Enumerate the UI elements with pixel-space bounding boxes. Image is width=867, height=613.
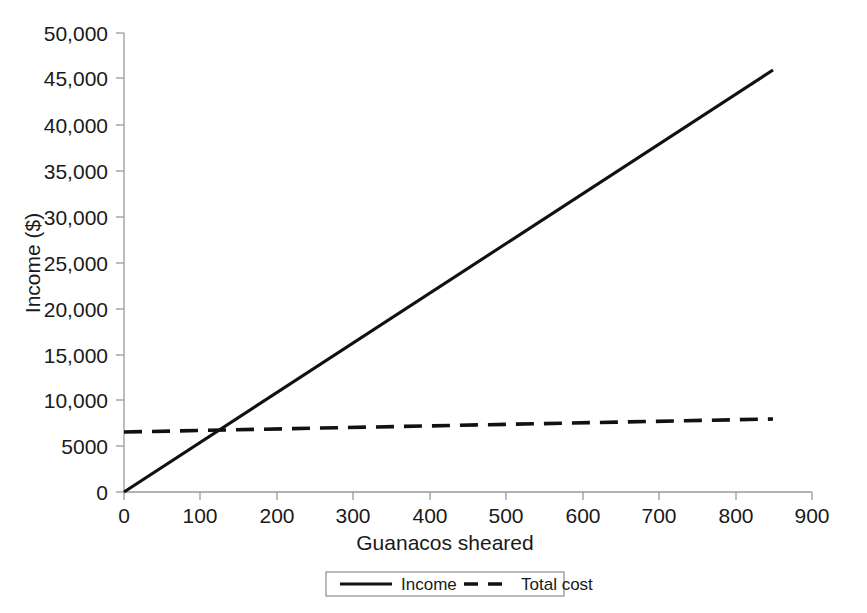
x-tick-label: 0 (118, 504, 130, 527)
y-tick-label: 10,000 (44, 389, 108, 412)
legend-label-total-cost: Total cost (521, 575, 593, 594)
y-tick-label: 5000 (61, 435, 108, 458)
x-tick-label: 700 (641, 504, 676, 527)
x-axis-tick-labels: 0 100 200 300 400 500 600 700 800 900 (118, 504, 829, 527)
x-tick-label: 800 (718, 504, 753, 527)
x-tick-label: 600 (565, 504, 600, 527)
legend-label-income: Income (401, 575, 457, 594)
y-tick-label: 20,000 (44, 298, 108, 321)
x-tick-label: 400 (412, 504, 447, 527)
x-tick-label: 200 (259, 504, 294, 527)
y-tick-label: 25,000 (44, 252, 108, 275)
x-axis-ticks (124, 492, 812, 500)
x-tick-label: 100 (182, 504, 217, 527)
y-tick-label: 15,000 (44, 344, 108, 367)
y-axis-ticks (116, 33, 124, 492)
chart-container: 50,000 45,000 40,000 35,000 30,000 25,00… (0, 0, 867, 613)
y-tick-label: 50,000 (44, 22, 108, 45)
x-axis-title: Guanacos sheared (356, 531, 533, 554)
y-tick-label: 30,000 (44, 206, 108, 229)
y-axis-title: Income ($) (21, 213, 44, 313)
y-axis-tick-labels: 50,000 45,000 40,000 35,000 30,000 25,00… (44, 22, 108, 504)
x-tick-label: 500 (488, 504, 523, 527)
series-line-total-cost (124, 419, 773, 432)
x-tick-label: 300 (335, 504, 370, 527)
y-tick-label: 45,000 (44, 67, 108, 90)
line-chart: 50,000 45,000 40,000 35,000 30,000 25,00… (0, 0, 867, 613)
y-tick-label: 35,000 (44, 160, 108, 183)
chart-legend: Income Total cost (326, 572, 593, 596)
y-tick-label: 40,000 (44, 114, 108, 137)
x-tick-label: 900 (794, 504, 829, 527)
y-tick-label: 0 (96, 481, 108, 504)
